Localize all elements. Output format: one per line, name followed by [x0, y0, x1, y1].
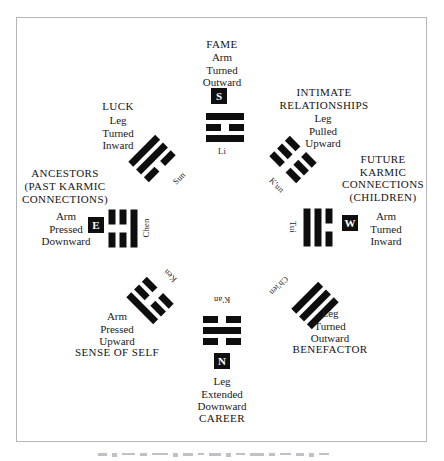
- trigram-name-tui: Tui: [288, 206, 298, 248]
- body-line: Arm: [11, 210, 121, 223]
- trigram-line-solid: [206, 135, 244, 142]
- trigram-line-broken: [203, 316, 241, 323]
- trigram-line-solid: [315, 209, 322, 247]
- area-title-benefactor: BENEFACTOR: [260, 343, 400, 356]
- direction-box-west: W: [342, 215, 358, 231]
- body-line: Pressed: [11, 223, 121, 236]
- trigram-name-li: Li: [201, 146, 243, 156]
- body-text-career: Leg Extended Downward: [167, 375, 277, 413]
- body-line: Inward: [331, 235, 441, 248]
- trigram-li: [206, 113, 244, 142]
- area-title-career: CAREER: [162, 412, 282, 425]
- area-title-fame: FAME: [162, 38, 282, 51]
- area-title-future-karmic-connections: FUTURE KARMIC CONNECTIONS (CHILDREN): [323, 153, 443, 203]
- body-line: Extended: [167, 388, 277, 401]
- area-title-line: CONNECTIONS: [323, 178, 443, 191]
- area-title-sense-of-self: SENSE OF SELF: [42, 346, 192, 359]
- trigram-name-kan: K'an: [201, 295, 243, 305]
- trigram-line-broken: [203, 338, 241, 345]
- trigram-line-broken: [120, 210, 127, 248]
- area-title-line: LUCK: [58, 100, 178, 113]
- area-title-intimate-relationships: INTIMATE RELATIONSHIPS: [263, 86, 385, 112]
- trigram-name-chen: Chen: [141, 207, 151, 249]
- cropped-caption: [98, 453, 354, 461]
- trigram-line-solid: [304, 209, 311, 247]
- direction-box-north: N: [214, 353, 230, 369]
- body-line: Outward: [167, 76, 277, 89]
- body-line: Downward: [11, 235, 121, 248]
- body-line: Downward: [167, 400, 277, 413]
- body-text-ancestors: Arm Pressed Downward: [11, 210, 121, 248]
- trigram-line-broken: [109, 210, 116, 248]
- body-line: Leg: [167, 375, 277, 388]
- trigram-tui: [304, 209, 333, 247]
- body-text-benefactor: Leg Turned Outward: [275, 307, 385, 345]
- body-line: Pulled: [268, 125, 378, 138]
- trigram-line-solid: [203, 327, 241, 334]
- body-line: Leg: [275, 307, 385, 320]
- area-title-line: SENSE OF SELF: [42, 346, 192, 359]
- area-title-line: (CHILDREN): [323, 191, 443, 204]
- direction-box-east: E: [88, 217, 104, 233]
- body-text-fame: Arm Turned Outward: [167, 51, 277, 89]
- area-title-line: CAREER: [162, 412, 282, 425]
- area-title-line: (PAST KARMIC: [3, 180, 127, 193]
- body-line: Leg: [268, 112, 378, 125]
- body-text-sense-of-self: Arm Pressed Upward: [62, 310, 172, 348]
- body-line: Arm: [62, 310, 172, 323]
- direction-box-south: S: [211, 88, 227, 104]
- bagua-body-diagram: FAME Arm Turned Outward S Li INTIMATE RE…: [0, 0, 444, 461]
- trigram-line-solid: [206, 113, 244, 120]
- body-line: Turned: [167, 64, 277, 77]
- area-title-line: FUTURE: [323, 153, 443, 166]
- trigram-chen: [109, 210, 138, 248]
- area-title-line: KARMIC: [323, 166, 443, 179]
- area-title-line: RELATIONSHIPS: [263, 99, 385, 112]
- area-title-line: ANCESTORS: [3, 167, 127, 180]
- area-title-ancestors: ANCESTORS (PAST KARMIC CONNECTIONS): [3, 167, 127, 206]
- body-line: Leg: [63, 114, 173, 127]
- trigram-line-broken: [206, 124, 244, 131]
- trigram-line-broken: [326, 209, 333, 247]
- trigram-line-solid: [131, 210, 138, 248]
- area-title-line: INTIMATE: [263, 86, 385, 99]
- body-line: Turned: [275, 320, 385, 333]
- area-title-luck: LUCK: [58, 100, 178, 113]
- area-title-line: CONNECTIONS): [3, 193, 127, 206]
- body-line: Arm: [167, 51, 277, 64]
- body-line: Pressed: [62, 323, 172, 336]
- area-title-line: BENEFACTOR: [260, 343, 400, 356]
- area-title-line: FAME: [162, 38, 282, 51]
- trigram-kan: [203, 316, 241, 345]
